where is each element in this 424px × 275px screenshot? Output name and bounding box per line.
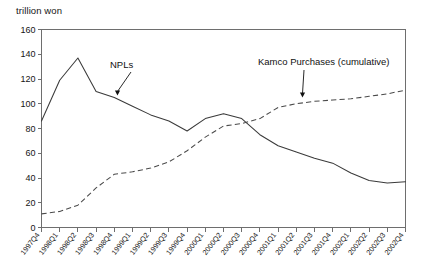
y-axis-tick-label: 100 <box>20 99 35 109</box>
line-chart-plot: 020406080100120140160 1997Q41998Q11998Q2… <box>0 0 424 275</box>
y-axis-tick-label: 60 <box>25 148 35 158</box>
y-axis-tick-marks <box>38 30 42 228</box>
chart-annotations: NPLsKamco Purchases (cumulative) <box>110 56 389 98</box>
series-kamco-purchases-line <box>42 90 406 214</box>
y-axis-tick-label: 160 <box>20 25 35 35</box>
y-axis-tick-label: 120 <box>20 74 35 84</box>
kamco-annotation-arrow-head <box>300 93 305 98</box>
y-axis-tick-label: 140 <box>20 49 35 59</box>
npl-annotation-label: NPLs <box>110 59 133 70</box>
x-axis-tick-marks <box>42 228 406 232</box>
npl-annotation-leader-line <box>118 72 132 92</box>
y-axis-tick-label: 40 <box>25 173 35 183</box>
chart-container: trillion won 020406080100120140160 1997Q… <box>0 0 424 275</box>
series-npls-line <box>42 58 406 183</box>
y-axis-tick-label: 80 <box>25 124 35 134</box>
npl-annotation-arrow-head <box>115 91 120 96</box>
y-axis-tick-label: 20 <box>25 198 35 208</box>
kamco-annotation-leader-line <box>303 70 305 94</box>
x-axis-tick-label: 2002Q4 <box>382 231 405 257</box>
kamco-annotation-label: Kamco Purchases (cumulative) <box>258 56 389 67</box>
x-axis-tick-labels: 1997Q41998Q11998Q21998Q31998Q41999Q11999… <box>18 231 405 257</box>
y-axis-tick-labels: 020406080100120140160 <box>20 25 35 233</box>
